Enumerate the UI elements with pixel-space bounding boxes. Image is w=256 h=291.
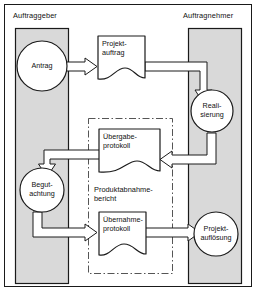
node-uebernahmeprotokoll[interactable] [99,212,146,255]
node-realisierung[interactable] [191,90,233,132]
diagram-canvas: Auftraggeber Auftragnehmer Antrag Projek… [0,0,256,291]
node-begutachtung[interactable] [20,168,64,212]
node-projektauftrag[interactable] [98,36,145,79]
node-uebergabeprotokoll[interactable] [99,129,160,172]
diagram-svg [0,0,256,291]
node-projektaufloesung[interactable] [194,212,238,256]
node-antrag[interactable] [17,41,67,91]
